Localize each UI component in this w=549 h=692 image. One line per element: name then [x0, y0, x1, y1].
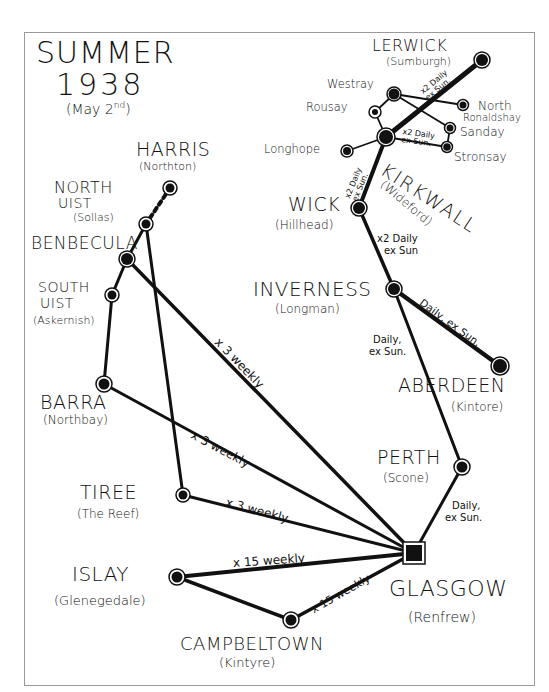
airfield-glasgow-icon [403, 542, 425, 564]
airfield-barra-icon [96, 376, 112, 392]
label-longhope: Longhope [264, 144, 320, 156]
airfield-northronaldshay-icon [458, 100, 469, 111]
airfield-sanday-icon [445, 123, 456, 134]
airfield-longhope-icon [341, 145, 353, 157]
label-south-uist-2: UIST [40, 296, 74, 310]
label-tiree-airfield: (The Reef) [77, 508, 139, 520]
airfield-aberdeen-icon [491, 357, 509, 375]
label-campbeltown-airfield: (Kintyre) [219, 656, 275, 669]
label-perth-airfield: (Scone) [383, 472, 429, 484]
label-westray: Westray [327, 79, 374, 91]
airfield-inverness-icon [386, 281, 402, 297]
airfield-tiree-icon [176, 488, 190, 502]
label-lerwick: LERWICK [372, 38, 447, 54]
airfield-benbecula-icon [119, 251, 135, 267]
freq-inverness-perth-2: ex Sun. [369, 347, 406, 357]
label-inverness-airfield: (Longman) [275, 303, 340, 315]
label-north-uist-airfield: (Sollas) [73, 212, 114, 223]
freq-wick-inverness-1: x2 Daily [377, 234, 418, 244]
label-north-uist-2: UIST [58, 196, 92, 210]
airfield-southuist-icon [105, 288, 119, 302]
label-barra: BARRA [40, 393, 107, 412]
label-barra-airfield: (Northbay) [43, 414, 108, 426]
label-wick: WICK [288, 195, 340, 214]
label-lerwick-airfield: (Sumburgh) [386, 56, 451, 67]
label-aberdeen: ABERDEEN [398, 376, 506, 395]
airfield-harris-icon [163, 181, 177, 195]
freq-perth-glasgow-1: Daily, [452, 501, 480, 511]
label-harris: HARRIS [136, 140, 210, 159]
label-glasgow: GLASGOW [389, 578, 507, 600]
freq-wick-inverness-2: ex Sun [384, 246, 418, 256]
label-islay: ISLAY [72, 564, 129, 584]
map-date: (May 2nd) [66, 101, 131, 116]
airfield-westray-icon [387, 87, 401, 101]
label-stronsay: Stronsay [454, 151, 507, 163]
freq-inverness-perth-1: Daily, [373, 335, 401, 345]
airfield-campbeltown-icon [283, 612, 299, 628]
map-year: 1938 [56, 70, 144, 100]
label-aberdeen-airfield: (Kintore) [451, 401, 503, 413]
airfield-lerwick-icon [474, 52, 490, 68]
label-north-ronaldshay-2: Ronaldshay [463, 113, 521, 123]
route-barra-glasgow [104, 384, 414, 553]
airfield-stronsay-icon [442, 142, 453, 153]
label-perth: PERTH [377, 448, 441, 467]
label-harris-airfield: (Northton) [139, 161, 196, 172]
airfield-kirkwall-icon [377, 128, 395, 146]
label-tiree: TIREE [80, 483, 137, 502]
airfield-islay-icon [169, 569, 185, 585]
label-campbeltown: CAMPBELTOWN [180, 635, 324, 653]
airfield-northuist-icon [139, 217, 153, 231]
map-title: SUMMER [36, 38, 175, 68]
label-wick-airfield: (Hillhead) [275, 219, 333, 231]
label-south-uist: SOUTH [38, 280, 90, 294]
airfield-wick-icon [351, 200, 367, 216]
label-benbecula: BENBECULA [31, 235, 138, 252]
label-south-uist-airfield: (Askernish) [33, 315, 95, 326]
label-north-ronaldshay: North [478, 100, 512, 112]
label-inverness: INVERNESS [253, 279, 372, 299]
airfield-rousay-icon [369, 106, 381, 118]
label-sanday: Sanday [460, 126, 505, 138]
label-islay-airfield: (Glenegedale) [54, 594, 146, 607]
label-rousay: Rousay [306, 102, 348, 114]
airfield-perth-icon [454, 459, 470, 475]
label-north-uist: NORTH [54, 180, 113, 196]
route-tiree-glasgow [183, 495, 414, 553]
freq-perth-glasgow-2: ex Sun. [445, 513, 482, 523]
label-glasgow-airfield: (Renfrew) [408, 610, 476, 624]
